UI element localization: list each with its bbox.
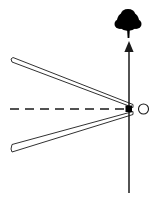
pivot-block	[126, 106, 133, 113]
roller-pin	[139, 104, 149, 114]
canvas-background	[0, 0, 160, 199]
tree-crown-lobe-right	[131, 19, 142, 29]
tree-crown-lobe-top	[121, 9, 135, 19]
mechanism-diagram	[0, 0, 160, 199]
diagram-canvas	[0, 0, 160, 199]
tree-crown-lobe-left	[115, 19, 126, 29]
